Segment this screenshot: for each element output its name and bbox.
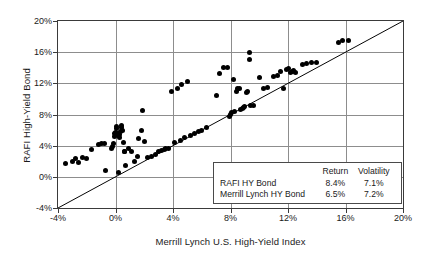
x-tick-label: -4% [36, 213, 80, 223]
data-point [140, 108, 145, 113]
plot-area: Return Volatility RAFI HY Bond 8.4% 7.1%… [57, 20, 404, 209]
y-tick-label: 16% [24, 47, 52, 57]
data-point [300, 62, 305, 67]
gridline-horizontal [58, 52, 403, 53]
data-point [265, 85, 270, 90]
data-point [145, 155, 150, 160]
y-tick-label: 8% [24, 110, 52, 120]
data-point [112, 134, 117, 139]
data-point [204, 125, 209, 130]
legend-row-merrill-return: 6.5% [318, 188, 353, 199]
y-axis-tick: 16% [58, 52, 59, 53]
data-point [70, 159, 75, 164]
data-point [278, 69, 283, 74]
data-point [120, 128, 125, 133]
y-tick-mark [53, 177, 58, 178]
x-axis-tick: 4% [173, 208, 174, 209]
data-point [112, 131, 117, 136]
legend-header-row: Return Volatility [220, 166, 395, 177]
data-point [242, 104, 247, 109]
data-point [139, 128, 144, 133]
y-tick-label: 20% [24, 16, 52, 26]
data-point [119, 125, 124, 130]
data-point [113, 130, 118, 135]
x-axis-tick: 20% [403, 208, 404, 209]
data-point [238, 107, 243, 112]
data-point [103, 168, 108, 173]
legend-header-name [220, 166, 318, 177]
data-point [271, 74, 276, 79]
data-point [96, 142, 101, 147]
data-point [257, 75, 262, 80]
gridline-horizontal [58, 83, 403, 84]
data-point [248, 103, 253, 108]
x-tick-label: 0% [94, 213, 138, 223]
data-point [117, 135, 122, 140]
statistics-legend: Return Volatility RAFI HY Bond 8.4% 7.1%… [213, 162, 402, 204]
data-point [178, 138, 183, 143]
legend-row-rafi: RAFI HY Bond 8.4% 7.1% [220, 177, 395, 188]
data-point [199, 128, 204, 133]
data-point [241, 105, 246, 110]
data-point [217, 71, 222, 76]
y-axis-tick: 8% [58, 115, 59, 116]
legend-row-rafi-volatility: 7.1% [353, 177, 395, 188]
x-axis-title: Merrill Lynch U.S. High-Yield Index [57, 236, 404, 247]
data-point [251, 103, 256, 108]
x-axis-tick: 8% [231, 208, 232, 209]
data-point [245, 89, 250, 94]
data-point [261, 86, 266, 91]
gridline-vertical [173, 21, 174, 208]
data-point [73, 156, 78, 161]
data-point [166, 146, 171, 151]
data-point [346, 38, 351, 43]
data-point [275, 73, 280, 78]
y-tick-label: 12% [24, 78, 52, 88]
data-point [291, 68, 296, 73]
data-point [232, 109, 237, 114]
data-point [109, 146, 114, 151]
data-point [111, 141, 116, 146]
y-axis-tick: 4% [58, 146, 59, 147]
data-point [126, 146, 131, 151]
data-point [136, 136, 141, 141]
data-point [84, 156, 89, 161]
data-point [142, 139, 147, 144]
data-point [114, 124, 119, 129]
data-point [175, 86, 180, 91]
data-point [340, 38, 345, 43]
x-tick-label: 16% [324, 213, 368, 223]
y-tick-label: 4% [24, 141, 52, 151]
y-axis-tick: 12% [58, 83, 59, 84]
y-tick-label: 0% [24, 172, 52, 182]
data-point [149, 154, 154, 159]
data-point [116, 170, 121, 175]
legend-header-volatility: Volatility [353, 166, 395, 177]
data-point [122, 149, 127, 154]
data-point [99, 141, 104, 146]
legend-row-merrill-name: Merrill Lynch HY Bond [220, 188, 318, 199]
data-point [114, 126, 119, 131]
data-point [162, 147, 167, 152]
data-point [229, 110, 234, 115]
data-point [115, 131, 120, 136]
legend-row-rafi-return: 8.4% [318, 177, 353, 188]
data-point [225, 65, 230, 70]
y-axis-tick: 20% [58, 21, 59, 22]
data-point [309, 60, 314, 65]
x-tick-label: 8% [209, 213, 253, 223]
x-axis-tick: 16% [346, 208, 347, 209]
data-point [121, 140, 126, 145]
data-point [247, 50, 252, 55]
data-point [102, 141, 107, 146]
data-point [172, 140, 177, 145]
data-point [244, 90, 249, 95]
gridline-vertical [116, 21, 117, 208]
data-point [159, 148, 164, 153]
x-axis-tick: 0% [116, 208, 117, 209]
data-point [288, 70, 293, 75]
data-point [89, 147, 94, 152]
data-point [80, 155, 85, 160]
data-point [179, 82, 184, 87]
data-point [281, 86, 286, 91]
